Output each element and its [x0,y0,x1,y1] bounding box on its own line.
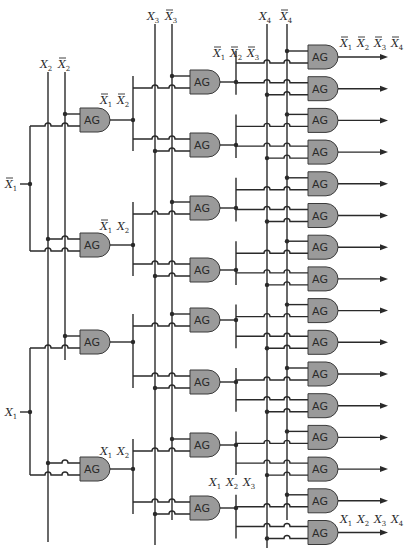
svg-text:X1: X1 [99,445,112,460]
junction-dot [265,346,269,350]
svg-text:X2: X2 [356,37,369,52]
gate-label: AG [312,178,328,191]
output-arrow-icon [380,86,388,92]
hop-wire [236,207,308,210]
stage1-and-gate: AG [80,233,110,257]
gate-label: AG [194,202,210,215]
hop-wire [236,143,308,146]
junction-dot [265,283,269,287]
svg-text:X4: X4 [279,10,293,25]
stage2-and-gate: AG [190,496,220,520]
junction-dot [153,386,157,390]
gate-label: AG [194,76,210,89]
svg-text:X1: X1 [339,513,352,528]
svg-text:X3: X3 [373,513,386,528]
junction-dot [285,366,289,370]
svg-text:X1: X1 [4,178,17,193]
hop-wire [30,123,80,126]
gate-label: AG [312,336,328,349]
stage3-and-gate: AG [308,77,338,101]
svg-text:X2: X2 [57,58,70,73]
hop-wire [236,60,308,63]
input-label-x4: X4 [258,10,272,25]
output-arrow-icon [380,371,388,377]
hop-wire [30,472,80,475]
gate-label: AG [194,314,210,327]
svg-text:X3: X3 [164,10,177,25]
hop-wire [236,397,308,400]
svg-text:X2: X2 [39,58,52,73]
hop-wire [133,85,190,88]
hop-wire [48,460,80,463]
input-label-x2: X2 [39,58,52,73]
stage2-and-gate: AG [190,370,220,394]
gate-label: AG [194,439,210,452]
stage3-and-gate: AG [308,45,338,69]
stage3-and-gate: AG [308,362,338,386]
product-term: X3 [373,37,386,52]
output-arrow-icon [380,149,388,155]
product-term: X2 [116,220,129,235]
hop-wire [236,440,308,443]
svg-text:X3: X3 [242,476,255,491]
input-label-x3-bar: X3 [164,10,177,25]
input-label-x4-bar: X4 [279,10,293,25]
product-term: X3 [242,476,255,491]
stage2-and-gate: AG [190,308,220,332]
hop-wire [236,524,308,527]
junction-dot [153,149,157,153]
output-arrow-icon [380,498,388,504]
stage2-and-gate: AG [190,258,220,282]
stage3-and-gate: AG [308,489,338,513]
junction-dot [285,49,289,53]
svg-text:X2: X2 [225,476,238,491]
hop-wire [133,373,190,376]
output-arrow-icon [380,276,388,282]
svg-text:X1: X1 [212,47,225,62]
junction-dot [285,239,289,243]
product-term: X4 [390,37,404,52]
gate-label: AG [312,368,328,381]
hop-wire [236,80,308,83]
junction-dot [265,219,269,223]
gate-label: AG [312,51,328,64]
gate-label: AG [312,273,328,286]
stage3-and-gate: AG [308,394,338,418]
junction-dot [46,237,50,241]
input-label-x1-bar: X1 [4,178,17,193]
gate-label: AG [312,305,328,318]
junction-dot [285,176,289,180]
junction-dot [170,200,174,204]
hop-wire [48,236,80,239]
gate-label: AG [312,83,328,96]
output-arrow-icon [380,117,388,123]
junction-dot [170,74,174,78]
output-arrow-icon [380,434,388,440]
hop-wire [133,261,190,264]
output-arrow-icon [380,530,388,536]
svg-text:X2: X2 [229,47,242,62]
stage3-and-gate: AG [308,140,338,164]
stage3-and-gate: AG [308,267,338,291]
product-term: X3 [373,513,386,528]
gate-label: AG [312,527,328,540]
junction-dot [265,410,269,414]
gate-label: AG [312,114,328,127]
stage2-and-gate: AG [190,196,220,220]
output-arrow-icon [380,244,388,250]
hop-wire [267,536,308,539]
svg-text:X1: X1 [4,406,17,421]
output-arrow-icon [380,54,388,60]
product-term: X1 [99,94,112,109]
stage1-and-gate: AG [80,108,110,132]
svg-text:X1: X1 [208,476,221,491]
hop-wire [30,248,80,251]
hop-wire [133,323,190,326]
gate-label: AG [194,264,210,277]
product-term: X4 [390,513,404,528]
gate-label: AG [312,495,328,508]
product-term: X2 [356,513,369,528]
junction-dot [46,461,50,465]
gate-label: AG [194,376,210,389]
gate-label: AG [312,210,328,223]
